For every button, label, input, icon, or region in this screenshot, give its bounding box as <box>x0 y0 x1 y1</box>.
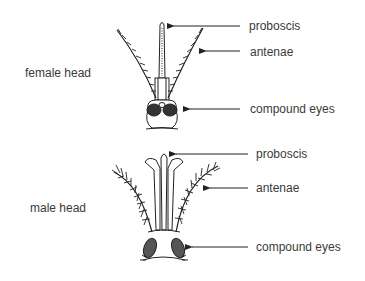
female-proboscis <box>155 23 169 101</box>
male-proboscis <box>161 154 167 230</box>
male-head-illustration <box>112 154 220 260</box>
female-antenna-left <box>117 29 156 98</box>
male-head-capsule <box>140 230 188 260</box>
male-head-title: male head <box>30 202 86 214</box>
diagram-canvas <box>0 0 365 281</box>
male-antenna-right <box>175 162 220 232</box>
female-head-title: female head <box>25 67 91 79</box>
female-head-capsule <box>146 100 178 129</box>
male-compound-eyes-label: compound eyes <box>256 241 341 253</box>
female-antenae-label: antenae <box>250 46 293 58</box>
male-antenae-label: antenae <box>256 182 299 194</box>
male-proboscis-label: proboscis <box>256 148 307 160</box>
female-antenna-right <box>168 28 203 98</box>
female-compound-eyes-label: compound eyes <box>250 103 335 115</box>
female-proboscis-label: proboscis <box>249 20 300 32</box>
female-head-illustration <box>117 23 203 130</box>
male-antenna-left <box>112 165 152 232</box>
female-arrows <box>174 26 240 109</box>
